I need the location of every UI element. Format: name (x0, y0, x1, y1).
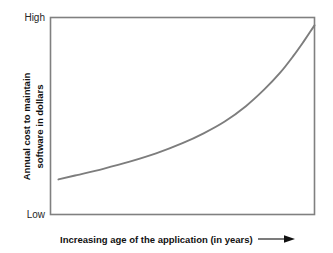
y-axis-title-line-1: Annual cost to maintain (21, 42, 34, 212)
y-axis-title: Annual cost to maintain software in doll… (21, 42, 46, 212)
x-axis-title: Increasing age of the application (in ye… (60, 234, 253, 245)
plot-area (0, 0, 333, 253)
arrow-right-icon (258, 234, 296, 244)
plot-frame (51, 18, 315, 215)
y-axis-title-line-2: software in dollars (33, 42, 46, 212)
chart-figure: High Low Annual cost to maintain softwar… (0, 0, 333, 253)
x-axis-title-group: Increasing age of the application (in ye… (60, 230, 333, 248)
y-axis-tick-high: High (5, 12, 45, 23)
